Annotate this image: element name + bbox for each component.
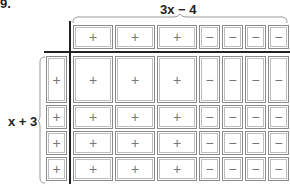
top-unit-tile: − bbox=[199, 25, 220, 49]
grid-unit-tile: − bbox=[245, 157, 266, 181]
grid-unit-tile: − bbox=[245, 131, 266, 155]
left-unit-tile: + bbox=[46, 157, 67, 181]
grid-x-tile: + bbox=[73, 131, 113, 155]
horizontal-axis-line bbox=[44, 51, 290, 53]
grid-x-tile: + bbox=[157, 131, 197, 155]
top-x-tile: + bbox=[73, 25, 113, 49]
left-unit-tile: + bbox=[46, 105, 67, 129]
grid-x2-tile: + bbox=[115, 56, 155, 103]
grid-unit-tile: − bbox=[245, 105, 266, 129]
top-unit-tile: − bbox=[245, 25, 266, 49]
grid-unit-tile: − bbox=[268, 105, 289, 129]
grid-x-tile: − bbox=[199, 56, 220, 103]
grid-x-tile: + bbox=[115, 131, 155, 155]
grid-unit-tile: − bbox=[199, 105, 220, 129]
vertical-axis-line bbox=[69, 21, 71, 184]
left-x-tile: + bbox=[46, 56, 67, 103]
grid-x-tile: + bbox=[73, 105, 113, 129]
grid-x-tile: − bbox=[222, 56, 243, 103]
top-brace-icon bbox=[72, 14, 288, 24]
left-unit-tile: + bbox=[46, 131, 67, 155]
grid-unit-tile: − bbox=[268, 157, 289, 181]
grid-x-tile: + bbox=[157, 105, 197, 129]
problem-number: 9. bbox=[0, 0, 11, 11]
grid-unit-tile: − bbox=[268, 131, 289, 155]
grid-x-tile: + bbox=[73, 157, 113, 181]
grid-unit-tile: − bbox=[222, 105, 243, 129]
grid-unit-tile: − bbox=[199, 157, 220, 181]
grid-unit-tile: − bbox=[222, 131, 243, 155]
grid-x-tile: + bbox=[157, 157, 197, 181]
top-unit-tile: − bbox=[222, 25, 243, 49]
algebra-tiles-diagram: 9. 3x − 4 x + 3 + + + − − − − + + + + + … bbox=[0, 0, 290, 190]
grid-x-tile: − bbox=[268, 56, 289, 103]
grid-x2-tile: + bbox=[73, 56, 113, 103]
grid-x-tile: + bbox=[115, 105, 155, 129]
grid-unit-tile: − bbox=[199, 131, 220, 155]
grid-x-tile: + bbox=[115, 157, 155, 181]
top-unit-tile: − bbox=[268, 25, 289, 49]
top-x-tile: + bbox=[157, 25, 197, 49]
grid-unit-tile: − bbox=[222, 157, 243, 181]
side-brace-icon bbox=[38, 56, 46, 184]
grid-x2-tile: + bbox=[157, 56, 197, 103]
grid-x-tile: − bbox=[245, 56, 266, 103]
top-x-tile: + bbox=[115, 25, 155, 49]
side-dimension-label: x + 3 bbox=[8, 114, 37, 129]
